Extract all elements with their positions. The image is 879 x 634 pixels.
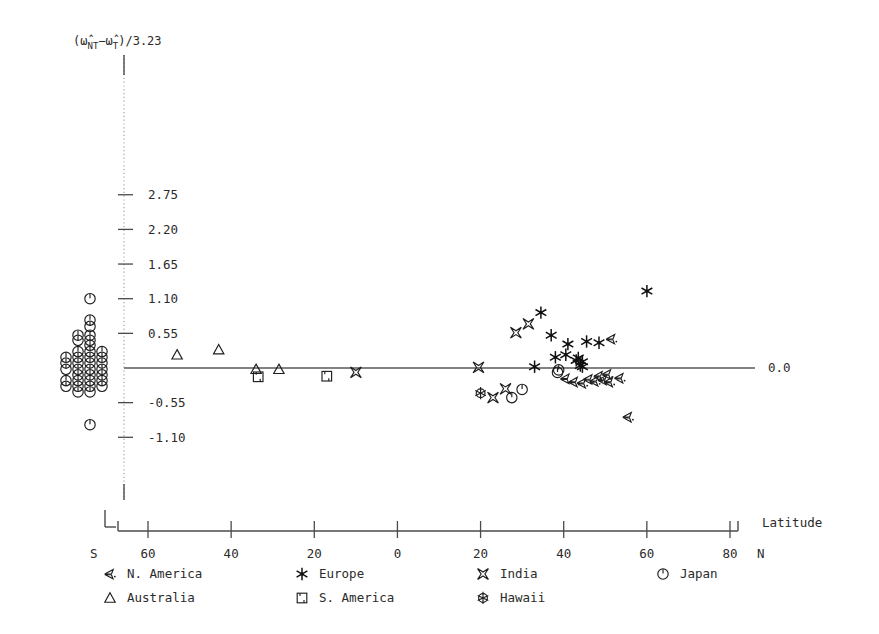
zero-reference-line: 0.0 <box>124 360 791 375</box>
x-tick-label: 20 <box>307 546 322 561</box>
data-point-asterisk <box>529 361 540 373</box>
series-europe <box>529 285 652 373</box>
data-point-asterisk <box>581 335 592 347</box>
data-point-bowtie <box>488 392 499 403</box>
series-australia <box>172 345 284 374</box>
y-tick-label: -0.55 <box>148 395 186 410</box>
legend-marker-triangle <box>105 593 115 602</box>
x-tick-label: 40 <box>224 546 239 561</box>
legend-marker-clock <box>658 569 668 579</box>
x-axis-title: Latitude <box>762 515 822 530</box>
data-point-bowtie <box>511 327 522 338</box>
x-tick-label: 60 <box>639 546 654 561</box>
legend-item-japan[interactable]: Japan <box>658 566 718 581</box>
legend-label: India <box>500 566 538 581</box>
legend-item-s-america[interactable]: S. America <box>297 590 394 605</box>
data-point-bowtie <box>523 319 534 330</box>
data-point-arrow-left <box>615 374 626 383</box>
ylabel-suffix: )/3.23 <box>118 34 161 48</box>
data-point-asterisk <box>594 337 605 349</box>
legend-marker-flower <box>478 592 489 604</box>
series-n-america <box>561 334 634 422</box>
x-tick-label: 0 <box>394 546 402 561</box>
data-point-asterisk <box>642 285 653 297</box>
series-india <box>351 319 534 404</box>
y-axis-label: (ω̂NT−ω̂T)/3.23 <box>73 34 162 51</box>
y-tick-label: 1.65 <box>148 257 178 272</box>
data-point-triangle <box>172 350 182 359</box>
data-point-clock <box>517 384 527 394</box>
series-hawaii <box>475 387 486 399</box>
legend-label: Europe <box>319 566 364 581</box>
data-point-arrow-left <box>606 334 617 343</box>
y-tick-label: 0.55 <box>148 326 178 341</box>
data-point-flower <box>475 387 486 399</box>
legend-item-hawaii[interactable]: Hawaii <box>478 590 545 605</box>
legend-item-india[interactable]: India <box>478 566 538 581</box>
legend-label: N. America <box>127 566 202 581</box>
data-point-asterisk <box>550 351 561 363</box>
plot-canvas: (ω̂NT−ω̂T)/3.23 2.752.201.651.100.55-0.5… <box>0 0 879 634</box>
legend-label: Hawaii <box>500 590 545 605</box>
x-axis-south-label: S <box>90 546 98 561</box>
legend: N. AmericaEuropeIndiaJapanAustraliaS. Am… <box>105 566 718 605</box>
data-point-asterisk <box>560 349 571 361</box>
legend-label: S. America <box>319 590 394 605</box>
data-point-arrow-left <box>604 377 615 386</box>
y-tick-label: 1.10 <box>148 291 178 306</box>
legend-item-europe[interactable]: Europe <box>297 566 365 581</box>
y-tick-label: 2.75 <box>148 187 178 202</box>
legend-label: Australia <box>127 590 195 605</box>
data-point-square <box>322 371 332 381</box>
x-tick-label: 40 <box>556 546 571 561</box>
data-point-clock <box>507 392 517 402</box>
data-point-clock <box>61 364 71 374</box>
data-point-triangle <box>274 364 284 373</box>
y-tick-label: -1.10 <box>148 430 186 445</box>
x-tick-label: 60 <box>140 546 155 561</box>
data-point-asterisk <box>563 338 574 350</box>
legend-label: Japan <box>680 566 718 581</box>
x-axis <box>105 510 738 531</box>
data-point-arrow-left <box>623 413 634 422</box>
ylabel-sub-nt: NT <box>87 41 98 51</box>
zero-line-label: 0.0 <box>768 360 791 375</box>
japan-dense-column <box>61 294 107 430</box>
scatter-plot-figure: (ω̂NT−ω̂T)/3.23 2.752.201.651.100.55-0.5… <box>0 0 879 634</box>
series-s-america <box>253 371 331 381</box>
data-point-clock <box>85 420 95 430</box>
legend-item-n-america[interactable]: N. America <box>105 566 202 581</box>
data-point-asterisk <box>536 306 547 318</box>
x-tick-label: 80 <box>722 546 737 561</box>
ylabel-open-paren: ( <box>73 34 80 48</box>
y-tick-labels: 2.752.201.651.100.55-0.55-1.10 <box>118 187 186 445</box>
legend-item-australia[interactable]: Australia <box>105 590 195 605</box>
x-tick-labels: 604020020406080 <box>140 521 737 561</box>
y-tick-label: 2.20 <box>148 222 178 237</box>
legend-marker-asterisk <box>297 568 308 580</box>
data-point-clock <box>85 294 95 304</box>
legend-marker-bowtie <box>478 569 489 580</box>
legend-marker-arrow-left <box>105 569 116 578</box>
legend-marker-square <box>297 593 307 603</box>
x-tick-label: 20 <box>473 546 488 561</box>
data-point-triangle <box>214 345 224 354</box>
x-axis-north-label: N <box>757 546 765 561</box>
ylabel-minus: − <box>98 34 105 48</box>
svg-text:(ω̂NT−ω̂T)/3.23: (ω̂NT−ω̂T)/3.23 <box>73 34 162 51</box>
data-point-asterisk <box>546 329 557 341</box>
